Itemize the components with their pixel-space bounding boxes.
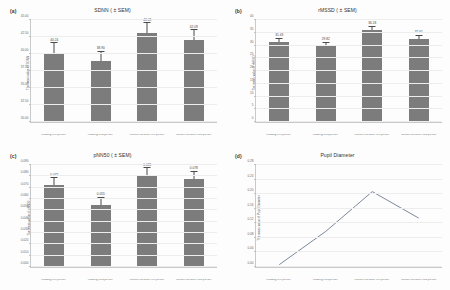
gridline (256, 251, 442, 252)
y-axis-tick-label: 30 (250, 40, 253, 44)
error-bar (147, 168, 148, 175)
panel-d-title: Pupil Diameter (225, 152, 450, 158)
y-axis-tick-label: 0.040 (21, 216, 29, 220)
y-axis-tick-mark (29, 121, 31, 122)
gridline (256, 222, 442, 223)
panel-b-axes: 31.4329.8236.1832.61 0510152025303540 (255, 20, 442, 123)
bar-slot: 0.055 (78, 165, 125, 267)
x-axis-tick-label: Reading first person (255, 134, 302, 137)
gridline (31, 198, 217, 199)
y-axis-tick-mark (29, 232, 31, 233)
gridline (31, 19, 217, 20)
y-axis-tick-mark (254, 266, 256, 267)
y-axis-tick-mark (254, 83, 256, 84)
bar-value-label: 31.43 (275, 33, 283, 37)
y-axis-tick-mark (254, 164, 256, 165)
gridline (256, 121, 442, 122)
panel-a-xticklabels: Reading first personReading third person… (30, 134, 217, 137)
bar-slot: 29.82 (303, 20, 350, 122)
panel-d-line-series (256, 165, 442, 290)
gridline (31, 266, 217, 267)
y-axis-tick-label: 0.04 (247, 246, 253, 250)
y-axis-tick-mark (29, 221, 31, 222)
y-axis-tick-label: 0 (252, 116, 254, 120)
gridline (31, 87, 217, 88)
y-axis-tick-mark (254, 108, 256, 109)
x-axis-tick-label: Custom literature third person (170, 279, 217, 282)
x-axis-tick-label: Custom literature third person (395, 134, 442, 137)
bar-value-label: 40.24 (50, 38, 58, 42)
gridline (31, 104, 217, 105)
y-axis-tick-label: 25 (250, 52, 253, 56)
panel-d-axes: 0.000.040.080.120.160.200.240.28 (255, 165, 442, 268)
y-axis-tick-mark (254, 179, 256, 180)
y-axis-tick-label: 32.50 (21, 99, 29, 103)
bar-slot: 31.43 (256, 20, 303, 122)
y-axis-tick-label: 10 (250, 91, 253, 95)
bar-value-label: 42.09 (190, 25, 198, 29)
bar-value-label: 36.18 (368, 21, 376, 25)
y-axis-tick-label: 37.50 (21, 65, 29, 69)
panel-c-axes: 0.0720.0550.0810.078 0.0000.0100.0200.03… (30, 165, 217, 268)
y-axis-tick-mark (254, 193, 256, 194)
y-axis-tick-label: 0.16 (247, 203, 253, 207)
gridline (31, 221, 217, 222)
y-axis-tick-label: 0.28 (247, 159, 253, 163)
panel-d-pupil-diameter: (d) Pupil Diameter The mean value of Pup… (225, 145, 450, 290)
y-axis-tick-label: 40.00 (21, 48, 29, 52)
gridline (256, 45, 442, 46)
x-axis-tick-label: Reading first person (255, 279, 302, 282)
y-axis-tick-mark (254, 121, 256, 122)
x-axis-tick-label: Custom literature first person (124, 134, 171, 137)
y-axis-tick-label: 0.24 (247, 174, 253, 178)
gridline (256, 32, 442, 33)
y-axis-tick-mark (254, 237, 256, 238)
y-axis-tick-label: 5 (252, 103, 254, 107)
y-axis-tick-mark (254, 70, 256, 71)
y-axis-tick-label: 35.00 (21, 82, 29, 86)
y-axis-tick-mark (29, 175, 31, 176)
y-axis-tick-label: 0.00 (247, 261, 253, 265)
y-axis-tick-mark (29, 36, 31, 37)
y-axis-tick-mark (29, 187, 31, 188)
panel-b-xticklabels: Reading first personReading third person… (255, 134, 442, 137)
gridline (256, 164, 442, 165)
bar-slot: 0.072 (31, 165, 78, 267)
bar-slot: 32.61 (396, 20, 443, 122)
gridline (256, 83, 442, 84)
x-axis-tick-label: Custom literature first person (124, 279, 171, 282)
panel-b-title: rMSSD ( ± SEM) (225, 7, 450, 13)
panel-b-rmssd: (b) rMSSD ( ± SEM) The mean value of rMS… (225, 0, 450, 145)
y-axis-tick-mark (29, 19, 31, 20)
x-axis-tick-label: Custom literature first person (349, 134, 396, 137)
gridline (31, 164, 217, 165)
x-axis-tick-label: Reading third person (77, 134, 124, 137)
y-axis-tick-label: 35 (250, 27, 253, 31)
y-axis-tick-mark (29, 243, 31, 244)
y-axis-tick-label: 15 (250, 78, 253, 82)
y-axis-tick-label: 45.00 (21, 14, 29, 18)
gridline (256, 108, 442, 109)
panel-d-plot-area: 0.000.040.080.120.160.200.240.28 (255, 165, 442, 268)
y-axis-tick-mark (254, 57, 256, 58)
gridline (256, 266, 442, 267)
gridline (256, 193, 442, 194)
panel-b-bar-series: 31.4329.8236.1832.61 (256, 20, 442, 122)
y-axis-tick-label: 0.090 (21, 159, 29, 163)
error-bar-cap (144, 167, 151, 168)
y-axis-tick-label: 0.070 (21, 182, 29, 186)
y-axis-tick-label: 20 (250, 65, 253, 69)
y-axis-tick-label: 0.080 (21, 170, 29, 174)
y-axis-tick-mark (29, 198, 31, 199)
bar: 32.61 (409, 39, 429, 122)
bar-slot: 0.081 (124, 165, 171, 267)
bar: 0.055 (91, 205, 111, 267)
panel-c-title: pNN50 ( ± SEM) (0, 152, 225, 158)
panel-c-xticklabels: Reading first personReading third person… (30, 279, 217, 282)
line-path (279, 192, 419, 265)
y-axis-tick-label: 0.000 (21, 261, 29, 265)
error-bar (193, 30, 194, 40)
y-axis-tick-mark (254, 45, 256, 46)
bar-slot: 0.078 (171, 165, 218, 267)
gridline (256, 208, 442, 209)
